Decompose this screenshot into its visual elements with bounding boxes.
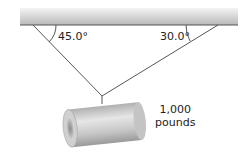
suspended-load-diagram bbox=[0, 0, 249, 153]
left-angle-arc bbox=[49, 25, 56, 42]
left-angle-label: 45.0° bbox=[58, 31, 88, 43]
weight-unit: pounds bbox=[155, 116, 195, 129]
right-angle-label: 30.0° bbox=[160, 31, 190, 43]
weight-value: 1,000 bbox=[155, 103, 195, 116]
ceiling-beam bbox=[20, 8, 238, 25]
weight-label: 1,000 pounds bbox=[155, 103, 195, 129]
cylinder-load bbox=[61, 102, 148, 148]
